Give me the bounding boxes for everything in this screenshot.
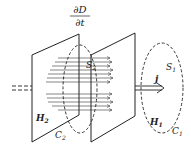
label-s2: S2 [86,60,96,71]
incoming-wire [12,86,32,90]
label-h1: H1 [149,117,163,128]
label-s1: S1 [166,62,176,73]
loop-c1 [141,43,183,133]
current-wire-j [135,83,164,93]
label-h2: H2 [35,113,49,124]
right-capacitor-plate [91,33,135,142]
svg-text:∂D: ∂D [73,4,86,15]
label-c1: C1 [172,126,183,137]
svg-text:∂t: ∂t [75,17,85,28]
dD-dt-label: ∂D ∂t [70,4,90,28]
label-c2: C2 [55,130,66,141]
label-j: j [153,74,159,84]
capacitor-displacement-current-diagram: ∂D ∂t S2 H2 C2 S1 j H1 C1 [0,0,191,152]
